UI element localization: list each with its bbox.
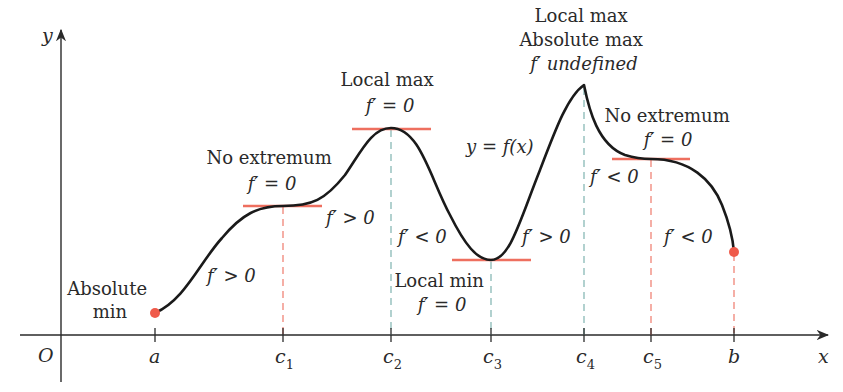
y-axis-label: y: [41, 24, 53, 46]
tick-label-a: a: [149, 345, 160, 367]
sign-c4-c5: f′ < 0: [588, 166, 639, 187]
sign-c5-b: f′ < 0: [662, 226, 713, 247]
local-min-label: Local min f′ = 0: [394, 270, 489, 315]
extrema-diagram: y x O a c1 c2 c3 c4 c5 b Absolute min: [0, 0, 843, 392]
sign-c1-c2: f′ > 0: [324, 207, 375, 228]
tick-label-c5: c5: [643, 345, 662, 372]
no-extremum-2-label: No extremum f′ = 0: [604, 105, 735, 150]
endpoint-a-dot: [150, 308, 160, 318]
tick-label-c1: c1: [275, 345, 294, 372]
sign-a-c1: f′ > 0: [205, 265, 256, 286]
tick-label-c3: c3: [483, 345, 502, 372]
x-axis-label: x: [818, 345, 829, 367]
sign-c3-c4: f′ > 0: [520, 226, 571, 247]
abs-min-label: Absolute min: [66, 278, 153, 322]
origin-label: O: [38, 344, 54, 366]
endpoint-b-dot: [729, 247, 739, 257]
no-extremum-1-label: No extremum f′ = 0: [206, 147, 337, 194]
local-max-label: Local max f′ = 0: [341, 69, 440, 116]
tick-label-c4: c4: [576, 345, 595, 372]
sign-c2-c3: f′ < 0: [396, 226, 447, 247]
curve-label: y = f(x): [465, 136, 534, 157]
tick-label-c2: c2: [383, 345, 402, 372]
tick-label-b: b: [728, 345, 740, 367]
absolute-max-label: Local max Absolute max f′ undefined: [518, 5, 648, 74]
